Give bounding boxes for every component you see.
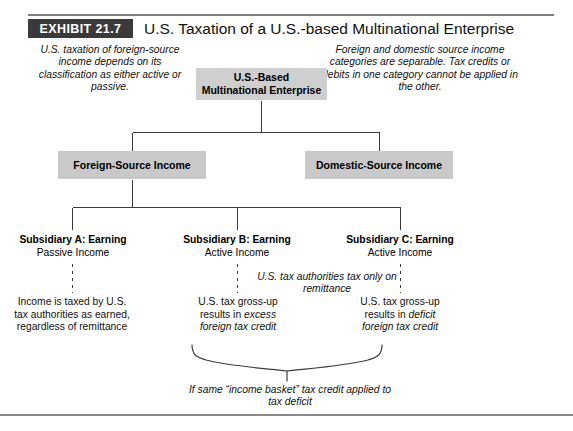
exhibit-tag: EXHIBIT 21.7 [28,19,133,38]
note-left: U.S. taxation of foreign-source income d… [30,44,190,94]
leaf-c-line2a: results in [365,309,409,320]
subsidiary-a-subtitle: Passive Income [2,246,144,259]
leaf-b-line3: foreign tax credit [200,321,276,332]
node-root-line2: Multinational Enterprise [202,84,322,97]
subsidiary-c-subtitle: Active Income [320,246,480,259]
leaf-b-line1: U.S. tax gross-up [198,296,278,307]
node-foreign-source-income: Foreign-Source Income [58,151,206,179]
leaf-subsidiary-c-text: U.S. tax gross-up results in deficit for… [330,296,470,334]
leaf-c-line1: U.S. tax gross-up [360,296,440,307]
brace-curve [192,345,382,371]
exhibit-figure: EXHIBIT 21.7 U.S. Taxation of a U.S.-bas… [0,0,573,431]
subsidiary-c: Subsidiary C: Earning Active Income [320,233,480,259]
note-income-basket: If same “income basket” tax credit appli… [186,384,394,409]
subsidiary-a: Subsidiary A: Earning Passive Income [2,233,144,259]
subsidiary-b-title: Subsidiary B: Earning [157,233,317,246]
top-rule [28,14,554,16]
bottom-rule [0,414,573,416]
leaf-b-line2b: excess [244,309,276,320]
note-remittance: U.S. tax authorities tax only on remitta… [247,271,407,296]
leaf-b-line2a: results in [200,309,244,320]
leaf-subsidiary-a-text: Income is taxed by U.S. tax authorities … [13,296,131,334]
subsidiary-c-title: Subsidiary C: Earning [320,233,480,246]
leaf-c-line3: foreign tax credit [362,321,438,332]
node-root-mne: U.S.-Based Multinational Enterprise [196,68,327,100]
node-domestic-source-income: Domestic-Source Income [305,151,453,179]
leaf-subsidiary-b-text: U.S. tax gross-up results in excess fore… [168,296,308,334]
subsidiary-b-subtitle: Active Income [157,246,317,259]
subsidiary-a-title: Subsidiary A: Earning [2,233,144,246]
exhibit-title: U.S. Taxation of a U.S.-based Multinatio… [144,19,514,38]
note-right: Foreign and domestic source income categ… [322,44,518,94]
leaf-c-line2b: deficit [409,309,436,320]
node-root-line1: U.S.-Based [234,71,289,84]
subsidiary-b: Subsidiary B: Earning Active Income [157,233,317,259]
